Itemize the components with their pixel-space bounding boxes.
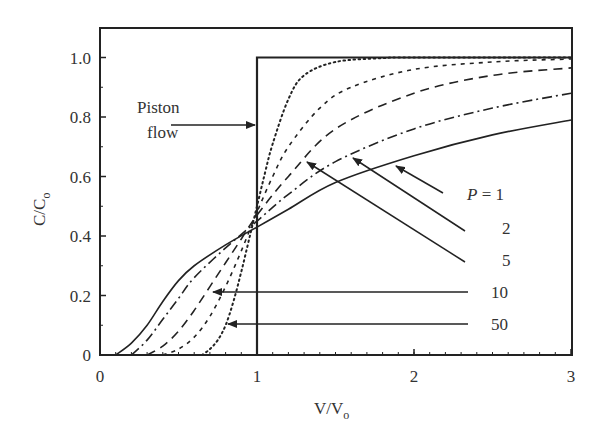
y-tick-label: 0.2 (70, 287, 91, 306)
piston-flow-label-2: flow (147, 123, 179, 142)
series-line-10 (163, 59, 571, 355)
x-tick-label: 1 (253, 367, 262, 386)
p1-arrow (396, 166, 443, 193)
y-tick-label: 0.8 (70, 108, 91, 127)
p2-label: 2 (502, 219, 511, 238)
piston-flow-label: Piston (137, 98, 180, 117)
x-axis-label: V/Vo (314, 399, 349, 422)
p50-label: 50 (491, 315, 508, 334)
p5-arrow (307, 162, 465, 262)
annotation-arrows (171, 125, 468, 324)
p1-label: P = 1 (466, 185, 504, 204)
series-line-5 (147, 68, 571, 355)
chart: 00.20.40.60.81.0 0123 V/Vo C/Co Piston f… (0, 0, 604, 432)
x-tick-label: 2 (410, 367, 419, 386)
y-tick-label: 0.4 (70, 227, 92, 246)
x-tick-label: 0 (96, 367, 105, 386)
y-tick-label: 0.6 (70, 168, 91, 187)
y-tick-label: 1.0 (70, 49, 91, 68)
x-tick-label: 3 (567, 367, 576, 386)
p10-label: 10 (491, 283, 508, 302)
p5-label: 5 (502, 251, 511, 270)
y-axis-label: C/Co (30, 193, 53, 226)
p2-arrow (353, 158, 465, 231)
y-tick-label: 0 (83, 346, 92, 365)
